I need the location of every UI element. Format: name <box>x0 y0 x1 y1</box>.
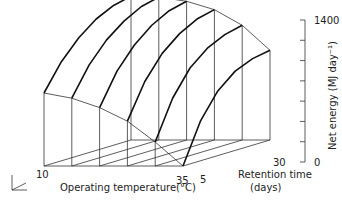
series-curve <box>44 0 131 93</box>
base-retention-line <box>44 140 131 166</box>
y-axis-label-line2: (days) <box>250 182 282 193</box>
series-curves <box>44 0 270 166</box>
x-axis-label: Operating temperature(°C) <box>60 182 196 193</box>
series-curve <box>72 0 159 98</box>
base-retention-line <box>72 140 159 166</box>
y-axis-label-line1: Retention time <box>238 169 312 180</box>
z-tick-max: 1400 <box>314 15 339 26</box>
series-curve <box>100 1 187 107</box>
vertical-lines <box>44 0 270 166</box>
base-retention-line <box>127 140 214 166</box>
y-tick-min: 5 <box>200 174 206 185</box>
series-curve <box>183 50 270 166</box>
front-surface-edge <box>44 93 183 166</box>
chart-canvas: 10 35 Operating temperature(°C) 5 30 Ret… <box>0 0 342 200</box>
surface-edges <box>44 0 270 166</box>
base-retention-line <box>100 140 187 166</box>
z-axis <box>300 20 305 162</box>
net-energy-3d-chart: 10 35 Operating temperature(°C) 5 30 Ret… <box>0 0 342 200</box>
z-tick-min: 0 <box>314 157 320 168</box>
orientation-glyph-icon <box>12 175 27 190</box>
base-retention-line <box>183 140 270 166</box>
z-axis-label: Net energy (MJ day⁻¹) <box>327 41 338 150</box>
y-tick-max: 30 <box>273 157 286 168</box>
x-tick-min: 10 <box>36 169 49 180</box>
